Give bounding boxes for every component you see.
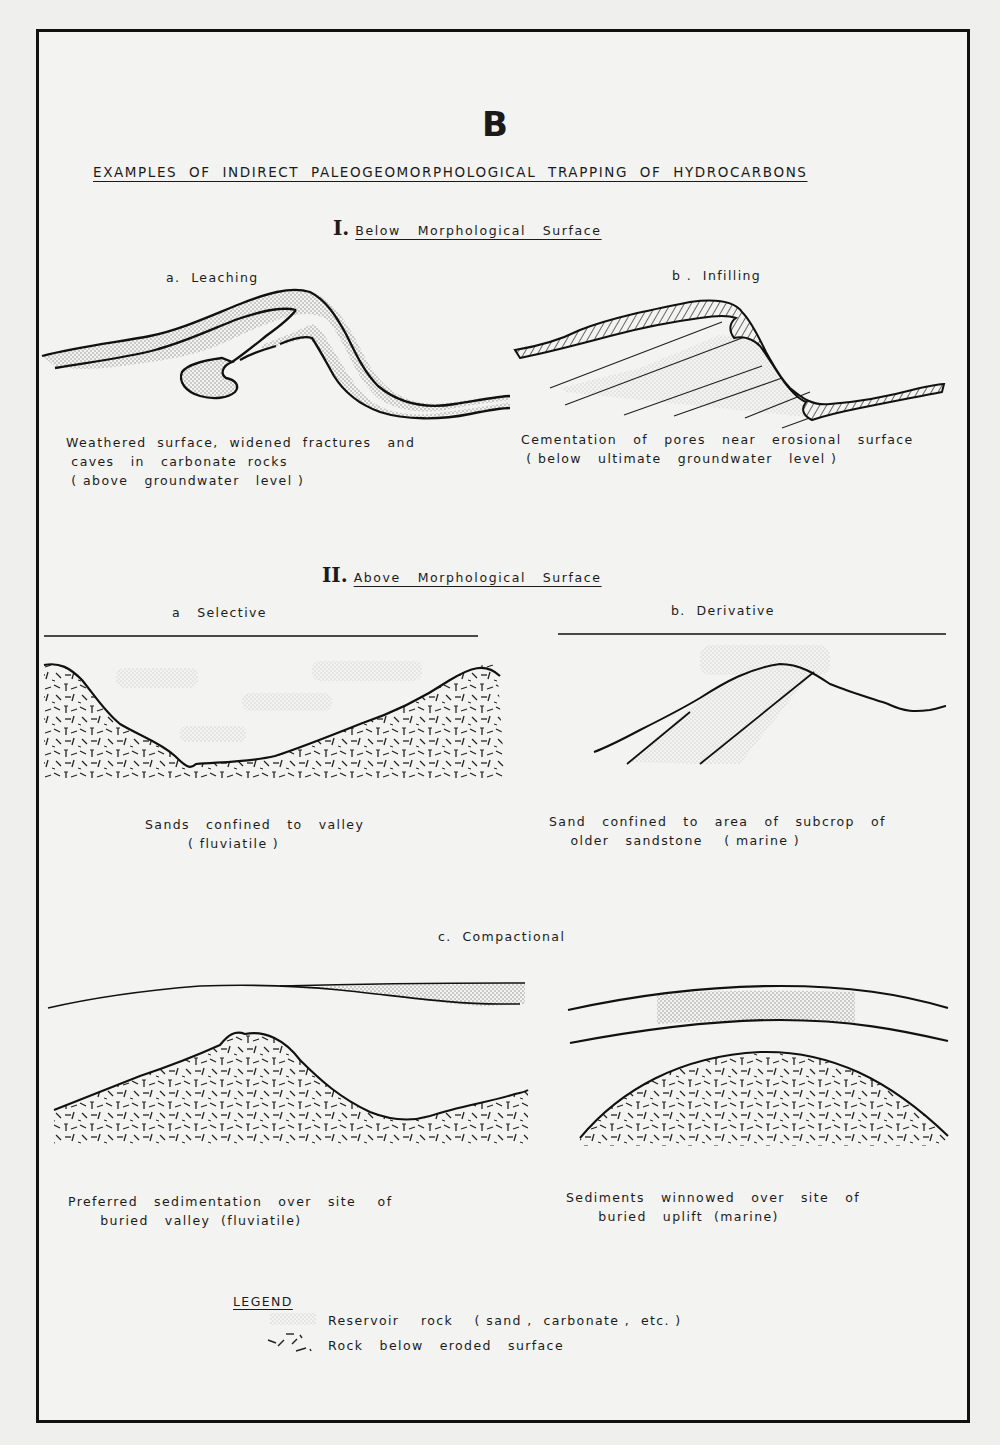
legend-dash-swatch — [268, 1334, 311, 1351]
figure-letter: B — [482, 104, 508, 144]
selective-caption-line-2: ( fluviatile ) — [145, 836, 279, 851]
derivative-caption-line-2: older sandstone ( marine ) — [549, 833, 800, 848]
leaching-caption-line-1: Weathered surface, widened fractures and — [66, 435, 415, 450]
compactional-right-caption-line-2: buried uplift (marine) — [566, 1209, 779, 1224]
leaching-heading: a. Leaching — [166, 270, 259, 285]
leaching-caption-line-3: ( above groundwater level ) — [66, 473, 304, 488]
section-2-numeral: II. — [322, 563, 348, 587]
compactional-left-caption-line-2: buried valley (fluviatile) — [68, 1213, 302, 1228]
compactional-heading: c. Compactional — [438, 929, 565, 944]
infilling-caption-line-1: Cementation of pores near erosional surf… — [521, 432, 914, 447]
selective-diagram — [44, 636, 505, 778]
infilling-diagram — [515, 300, 944, 428]
legend-item-rock-below: Rock below eroded surface — [328, 1338, 564, 1353]
section-1-label: Below Morphological Surface — [355, 223, 601, 238]
compactional-uplift-diagram — [568, 986, 948, 1146]
derivative-caption-line-1: Sand confined to area of subcrop of — [549, 814, 886, 829]
section-2-heading: II.Above Morphological Surface — [322, 563, 602, 587]
selective-heading: a Selective — [172, 605, 267, 620]
legend-title: LEGEND — [233, 1294, 293, 1309]
section-1-heading: I.Below Morphological Surface — [333, 216, 602, 240]
leaching-diagram — [42, 290, 510, 418]
section-2-label: Above Morphological Surface — [354, 570, 602, 585]
legend-stipple-swatch — [270, 1313, 316, 1325]
compactional-valley-diagram — [48, 983, 528, 1145]
infilling-caption-line-2: ( below ultimate groundwater level ) — [521, 451, 837, 466]
legend-item-reservoir: Reservoir rock ( sand , carbonate , etc.… — [328, 1313, 682, 1328]
leaching-caption-line-2: caves in carbonate rocks — [66, 454, 288, 469]
derivative-diagram — [558, 634, 946, 764]
compactional-left-caption-line-1: Preferred sedimentation over site of — [68, 1194, 392, 1209]
compactional-right-caption-line-1: Sediments winnowed over site of — [566, 1190, 860, 1205]
figure-title: EXAMPLES OF INDIRECT PALEOGEOMORPHOLOGIC… — [93, 164, 808, 180]
selective-caption-line-1: Sands confined to valley — [145, 817, 364, 832]
infilling-heading: b . Infilling — [672, 268, 761, 283]
derivative-heading: b. Derivative — [671, 603, 775, 618]
section-1-numeral: I. — [333, 216, 349, 240]
